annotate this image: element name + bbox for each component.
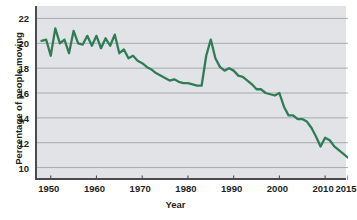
x-tick-label: 1970 bbox=[130, 183, 151, 194]
x-tick-label: 1980 bbox=[175, 183, 196, 194]
x-tick-marks-group bbox=[51, 176, 348, 181]
x-axis-title: Year bbox=[0, 199, 351, 210]
x-tick-label: 2000 bbox=[267, 183, 288, 194]
x-tick-label: 1990 bbox=[221, 183, 242, 194]
x-tick-label: 2015 bbox=[335, 183, 356, 194]
plot-area bbox=[35, 6, 346, 180]
x-tick-label: 1950 bbox=[38, 183, 59, 194]
x-tick-label: 2010 bbox=[313, 183, 334, 194]
y-axis-title: Percentage of people moving bbox=[13, 24, 24, 174]
chart-svg bbox=[37, 6, 348, 180]
x-tick-label: 1960 bbox=[84, 183, 105, 194]
y-tick-label: 22 bbox=[18, 13, 29, 24]
